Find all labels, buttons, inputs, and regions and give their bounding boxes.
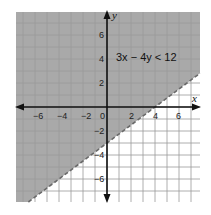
x-tick-label: −6: [33, 111, 43, 121]
inequality-graph: x y 0 −6 −4 −2 2 4 6 6 4 2 −2 −4 −6 3x −…: [0, 0, 211, 215]
y-tick-label: −4: [94, 150, 104, 160]
y-tick-label: −6: [94, 174, 104, 184]
x-tick-label: −4: [57, 111, 67, 121]
y-tick-label: 6: [99, 30, 104, 40]
inequality-label: 3x − 4y < 12: [116, 51, 177, 63]
x-tick-label: 6: [176, 111, 181, 121]
x-tick-label: 4: [153, 111, 158, 121]
y-tick-label: −2: [94, 126, 104, 136]
origin-label: 0: [100, 111, 105, 121]
x-tick-label: 2: [129, 111, 134, 121]
x-axis-label: x: [191, 92, 197, 104]
y-tick-label: 2: [99, 78, 104, 88]
x-tick-label: −2: [81, 111, 91, 121]
y-axis-label: y: [111, 9, 117, 21]
y-tick-label: 4: [99, 54, 104, 64]
